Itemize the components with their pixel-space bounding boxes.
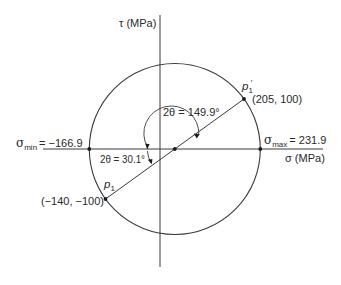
- point-p1-prime: [242, 97, 246, 101]
- p1-label: p1: [103, 178, 115, 193]
- angle-label-small: 2θ = 30.1°: [100, 153, 145, 165]
- p1-coordinates: (−140, −100): [41, 195, 104, 207]
- sigma-min-value: = −166.9: [39, 137, 82, 149]
- angle-label-large: 2θ = 149.9°: [163, 106, 220, 118]
- sigma-max-symbol: σ: [264, 133, 272, 147]
- sigma-max-label: σmax= 231.9: [264, 133, 326, 149]
- point-p1: [104, 197, 108, 201]
- p1-prime-label: p1′: [241, 78, 253, 95]
- sigma-min-symbol: σ: [16, 136, 24, 150]
- p1-prime-coordinates: (205, 100): [252, 93, 302, 105]
- sigma-axis-label: σ (MPa): [285, 152, 325, 164]
- arrowhead-small-arc: [148, 159, 153, 164]
- point-center: [173, 147, 177, 151]
- sigma-min-label: σmin= −166.9: [16, 136, 83, 152]
- sigma-max-value: = 231.9: [289, 134, 326, 146]
- mohrs-circle-diagram: τ (MPa) σ (MPa) σmin= −166.9 σmax= 231.9…: [0, 0, 341, 285]
- p1-subscript: 1: [110, 184, 115, 193]
- sigma-max-subscript: max: [272, 140, 287, 149]
- tau-axis-label: τ (MPa): [119, 17, 156, 29]
- sigma-min-subscript: min: [24, 143, 37, 152]
- point-sigma-min: [87, 147, 91, 151]
- point-sigma-max: [258, 147, 262, 151]
- arrowhead-large-arc: [194, 133, 200, 138]
